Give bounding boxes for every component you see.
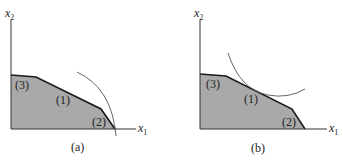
caption-b: (b) (251, 141, 265, 155)
region-label-3-a: (3) (15, 78, 29, 92)
region-label-3-b: (3) (206, 77, 220, 91)
region-label-1-a: (1) (56, 93, 70, 107)
x-axis-label-a: x1 (137, 121, 147, 137)
y-axis-label-a: x2 (4, 6, 14, 22)
figure-canvas: x2 x1 (3) (1) (2) (a) x2 x1 (3) (1) (2) … (0, 0, 343, 165)
x-axis-label-b: x1 (328, 121, 338, 137)
panel-a: x2 x1 (3) (1) (2) (a) (4, 6, 147, 154)
region-label-2-a: (2) (92, 115, 106, 129)
y-axis-label-b: x2 (193, 6, 203, 22)
panel-b: x2 x1 (3) (1) (2) (b) (193, 6, 338, 155)
caption-a: (a) (71, 140, 84, 154)
region-label-1-b: (1) (244, 92, 258, 106)
region-label-2-b: (2) (282, 115, 296, 129)
